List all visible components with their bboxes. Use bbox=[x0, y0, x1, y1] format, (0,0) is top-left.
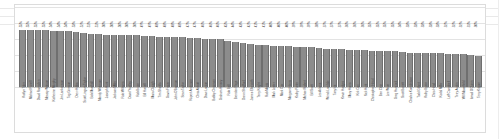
bar[interactable] bbox=[316, 48, 323, 87]
bar-slot[interactable]: 34% bbox=[399, 25, 407, 87]
bar-slot[interactable]: 39% bbox=[292, 25, 300, 87]
bar-slot[interactable]: 42% bbox=[247, 25, 255, 87]
category-label-slot: Kaitlyn Tyler bbox=[19, 89, 27, 133]
bar-slot[interactable]: 36% bbox=[353, 25, 361, 87]
bar-chart[interactable]: 55%55%55%55%54%54%54%53%52%51%51%50%50%5… bbox=[14, 4, 486, 133]
bar-slot[interactable]: 44% bbox=[232, 25, 240, 87]
bar-slot[interactable]: 33% bbox=[414, 25, 422, 87]
bar-slot[interactable]: 43% bbox=[239, 25, 247, 87]
bar-slot[interactable]: 32% bbox=[459, 25, 467, 87]
bar-slot[interactable]: 55% bbox=[27, 25, 35, 87]
category-label-slot: Rupert Anderson bbox=[186, 89, 194, 133]
bar-slot[interactable]: 35% bbox=[391, 25, 399, 87]
bar-slot[interactable]: 47% bbox=[194, 25, 202, 87]
bar-slot[interactable]: 33% bbox=[429, 25, 437, 87]
bar-slot[interactable]: 55% bbox=[19, 25, 27, 87]
bar[interactable] bbox=[42, 30, 49, 87]
bar-slot[interactable]: 38% bbox=[315, 25, 323, 87]
bar-slot[interactable]: 35% bbox=[376, 25, 384, 87]
bar-slot[interactable]: 46% bbox=[209, 25, 217, 87]
bar-slot[interactable]: 36% bbox=[346, 25, 354, 87]
bar-slot[interactable]: 50% bbox=[118, 25, 126, 87]
bar-slot[interactable]: 32% bbox=[452, 25, 460, 87]
bar[interactable] bbox=[19, 30, 26, 87]
bar-slot[interactable]: 37% bbox=[330, 25, 338, 87]
bar[interactable] bbox=[141, 36, 148, 87]
bar-slot[interactable]: 36% bbox=[361, 25, 369, 87]
category-label-slot: Kirk Cox bbox=[353, 89, 361, 133]
bar[interactable] bbox=[202, 39, 209, 87]
bar[interactable] bbox=[27, 30, 34, 87]
bar[interactable] bbox=[149, 36, 156, 87]
bar-slot[interactable]: 46% bbox=[216, 25, 224, 87]
bar-slot[interactable]: 35% bbox=[384, 25, 392, 87]
bar-slot[interactable]: 40% bbox=[270, 25, 278, 87]
bar[interactable] bbox=[224, 41, 231, 88]
bar-slot[interactable]: 41% bbox=[262, 25, 270, 87]
bar-slot[interactable]: 53% bbox=[72, 25, 80, 87]
bar[interactable] bbox=[255, 45, 262, 87]
bar[interactable] bbox=[361, 50, 368, 87]
bar-slot[interactable]: 48% bbox=[156, 25, 164, 87]
bar-slot[interactable]: 50% bbox=[133, 25, 141, 87]
bar[interactable] bbox=[65, 31, 72, 87]
bar-slot[interactable]: 51% bbox=[87, 25, 95, 87]
bar[interactable] bbox=[88, 34, 95, 87]
bar-slot[interactable]: 37% bbox=[338, 25, 346, 87]
bar-slot[interactable]: 54% bbox=[65, 25, 73, 87]
bar[interactable] bbox=[354, 50, 361, 87]
bar-slot[interactable]: 40% bbox=[285, 25, 293, 87]
bar-slot[interactable]: 39% bbox=[308, 25, 316, 87]
bar-slot[interactable]: 41% bbox=[254, 25, 262, 87]
bar-slot[interactable]: 46% bbox=[201, 25, 209, 87]
bar-slot[interactable]: 40% bbox=[277, 25, 285, 87]
bar[interactable] bbox=[278, 46, 285, 87]
bar-slot[interactable]: 49% bbox=[148, 25, 156, 87]
bar-slot[interactable]: 37% bbox=[323, 25, 331, 87]
bar-slot[interactable]: 50% bbox=[103, 25, 111, 87]
bar-slot[interactable]: 50% bbox=[125, 25, 133, 87]
bar-slot[interactable]: 50% bbox=[110, 25, 118, 87]
bar-value-label: 41% bbox=[262, 21, 265, 27]
bar[interactable] bbox=[118, 35, 125, 87]
bar[interactable] bbox=[179, 37, 186, 87]
bar-value-label: 46% bbox=[202, 21, 205, 27]
bar[interactable] bbox=[331, 49, 338, 87]
bar-slot[interactable]: 45% bbox=[224, 25, 232, 87]
bar[interactable] bbox=[262, 45, 269, 87]
bar-slot[interactable]: 49% bbox=[141, 25, 149, 87]
bar-slot[interactable]: 33% bbox=[437, 25, 445, 87]
bar-slot[interactable]: 39% bbox=[300, 25, 308, 87]
bar-slot[interactable]: 32% bbox=[444, 25, 452, 87]
bar-slot[interactable]: 51% bbox=[95, 25, 103, 87]
bar-slot[interactable]: 48% bbox=[163, 25, 171, 87]
bar[interactable] bbox=[133, 35, 140, 87]
bar[interactable] bbox=[103, 35, 110, 87]
bar-value-label: 38% bbox=[316, 21, 319, 27]
bar[interactable] bbox=[164, 37, 171, 87]
bar-slot[interactable]: 55% bbox=[34, 25, 42, 87]
bar[interactable] bbox=[293, 47, 300, 87]
bar[interactable] bbox=[376, 51, 383, 87]
bar[interactable] bbox=[156, 37, 163, 87]
bar[interactable] bbox=[73, 32, 80, 87]
bar[interactable] bbox=[270, 46, 277, 87]
bar[interactable] bbox=[308, 47, 315, 87]
bar-slot[interactable]: 54% bbox=[57, 25, 65, 87]
bar-slot[interactable]: 31% bbox=[467, 25, 475, 87]
bar-slot[interactable]: 30% bbox=[475, 25, 483, 87]
bar[interactable] bbox=[384, 51, 391, 87]
bar[interactable] bbox=[57, 31, 64, 87]
bar-value-label: 32% bbox=[452, 21, 455, 27]
bar-value-label: 33% bbox=[422, 21, 425, 27]
bar-slot[interactable]: 55% bbox=[42, 25, 50, 87]
bar[interactable] bbox=[126, 35, 133, 87]
bar[interactable] bbox=[194, 38, 201, 87]
bar[interactable] bbox=[111, 35, 118, 87]
bar-slot[interactable]: 48% bbox=[178, 25, 186, 87]
bar-slot[interactable]: 33% bbox=[421, 25, 429, 87]
bar-slot[interactable]: 47% bbox=[186, 25, 194, 87]
bar-value-label: 54% bbox=[50, 21, 53, 27]
bar-slot[interactable]: 48% bbox=[171, 25, 179, 87]
bar-value-label: 35% bbox=[369, 21, 372, 27]
